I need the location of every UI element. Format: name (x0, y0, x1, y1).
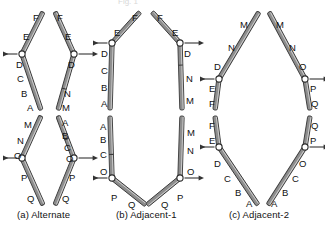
segment-label-b-2: D (101, 49, 108, 59)
segment-label-c-11: E (209, 136, 215, 146)
rod-b-bot-left-upper (108, 116, 114, 178)
segment-label-a-2: D (16, 60, 23, 70)
caption-b: (b) Adjacent-1 (116, 209, 177, 220)
segment-label-b-3: C (101, 66, 108, 76)
segment-label-b-0: F (132, 13, 138, 23)
b-joint-lower-left[interactable] (109, 175, 115, 181)
segment-label-a-0: F (33, 13, 39, 23)
segment-label-c-16: Q (311, 121, 318, 131)
segment-label-c-17: P (310, 136, 316, 146)
joints-layer (3, 40, 324, 181)
segment-label-a-17: B (62, 131, 68, 141)
segment-label-b-12: B (100, 135, 106, 145)
segment-label-a-18: C (64, 143, 71, 153)
c-joint-lower-left[interactable] (216, 144, 222, 150)
segment-label-c-3: E (209, 84, 215, 94)
segment-label-a-3: C (17, 74, 24, 84)
segment-label-b-5: A (101, 99, 107, 109)
segment-label-b-17: M (187, 128, 195, 138)
segment-label-a-6: F (57, 13, 63, 23)
rod-c-top-left-upper (217, 11, 261, 80)
segment-label-a-13: O (14, 151, 21, 161)
segment-label-c-10: F (209, 121, 215, 131)
caption-c: (c) Adjacent-2 (229, 209, 289, 220)
segment-label-b-6: F (157, 13, 163, 23)
segment-label-b-19: O (187, 167, 194, 177)
segment-label-a-11: M (24, 120, 32, 130)
segment-label-a-14: P (21, 173, 27, 183)
rod-highlight (24, 55, 42, 108)
segment-label-b-14: O (100, 167, 107, 177)
segment-label-b-11: A (100, 122, 106, 132)
segment-label-a-7: E (65, 32, 71, 42)
segment-label-b-1: E (114, 28, 120, 38)
segment-label-b-13: C (100, 150, 107, 160)
segment-label-b-7: E (172, 28, 178, 38)
segment-label-c-13: C (224, 174, 231, 184)
segment-label-c-9: Q (311, 99, 318, 109)
segment-label-a-16: A (62, 118, 68, 128)
segment-label-b-18: N (187, 146, 194, 156)
segment-label-b-9: N (186, 74, 193, 84)
segment-label-b-15: P (111, 193, 117, 203)
c-joint-upper-left[interactable] (216, 76, 222, 82)
segment-label-c-1: N (228, 43, 235, 53)
b-joint-upper-left[interactable] (109, 40, 115, 46)
segment-label-a-9: N (64, 89, 71, 99)
panel-b (108, 11, 184, 207)
segment-label-b-8: D (184, 49, 191, 59)
segment-label-c-20: B (282, 188, 288, 198)
c-joint-upper-right[interactable] (302, 76, 308, 82)
segment-label-b-20: P (177, 193, 183, 203)
segment-label-b-4: B (101, 83, 107, 93)
segment-label-a-5: A (27, 103, 33, 113)
segment-label-a-10: M (62, 103, 70, 113)
segment-label-c-4: F (209, 99, 215, 109)
linkage-diagram (0, 0, 325, 227)
c-joint-lower-right[interactable] (302, 144, 308, 150)
segment-label-a-8: D (68, 60, 75, 70)
segment-label-c-2: D (214, 62, 221, 72)
caption-a: (a) Alternate (17, 209, 70, 220)
rod-b-top-left-lower (108, 43, 114, 110)
segment-label-c-8: P (310, 84, 316, 94)
segment-label-a-4: B (21, 89, 27, 99)
segment-label-c-14: B (235, 188, 241, 198)
segment-label-a-20: P (69, 173, 75, 183)
segment-label-c-7: O (299, 62, 306, 72)
segment-label-c-12: D (214, 159, 221, 169)
a-joint-upper-left[interactable] (19, 51, 25, 57)
segment-label-c-0: M (240, 20, 248, 30)
segment-label-a-21: Q (62, 194, 69, 204)
segment-label-a-19: O (66, 154, 73, 164)
segment-label-c-6: N (289, 43, 296, 53)
segment-label-a-12: N (17, 136, 24, 146)
segment-label-c-5: M (276, 20, 284, 30)
segment-label-c-21: A (271, 199, 277, 209)
segment-label-a-15: Q (27, 194, 34, 204)
segment-label-c-18: O (299, 159, 306, 169)
segment-label-a-1: E (23, 32, 29, 42)
b-joint-upper-right[interactable] (177, 40, 183, 46)
segment-label-c-19: C (292, 174, 299, 184)
a-joint-upper-right[interactable] (71, 51, 77, 57)
segment-label-c-15: A (246, 199, 252, 209)
rod-b-bot-right-upper (178, 116, 184, 178)
b-joint-lower-right[interactable] (177, 175, 183, 181)
segment-label-b-10: M (186, 96, 194, 106)
